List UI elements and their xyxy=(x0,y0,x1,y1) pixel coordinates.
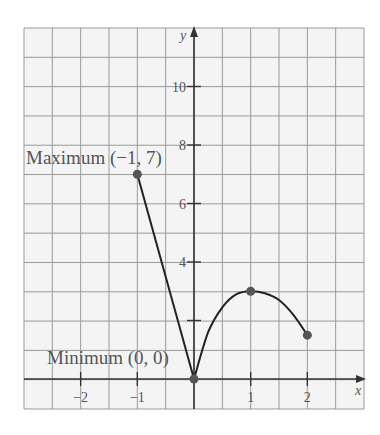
data-point xyxy=(133,170,142,179)
minimum-annotation: Minimum (0, 0) xyxy=(47,347,169,369)
x-tick-label: −2 xyxy=(73,390,88,405)
data-point xyxy=(246,287,255,296)
maximum-annotation: Maximum (−1, 7) xyxy=(26,147,162,169)
data-point xyxy=(303,331,312,340)
x-tick-label: −1 xyxy=(130,390,145,405)
y-tick-label: 4 xyxy=(179,255,186,270)
y-axis-label: y xyxy=(178,28,187,43)
x-tick-label: 1 xyxy=(247,390,254,405)
y-tick-label: 10 xyxy=(172,80,186,95)
data-point xyxy=(190,375,199,384)
y-tick-label: 8 xyxy=(179,138,186,153)
y-tick-label: 6 xyxy=(179,197,186,212)
x-tick-label: 2 xyxy=(304,390,311,405)
x-axis-label: x xyxy=(354,383,362,398)
function-graph: y x Maximum (−1, 7) Minimum (0, 0) −2−11… xyxy=(0,0,380,435)
